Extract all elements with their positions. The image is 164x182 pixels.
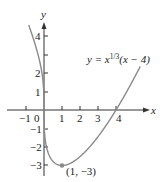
x-tick-label: 4 xyxy=(116,112,122,124)
equation-label: y = x1/3(x − 4) xyxy=(86,52,150,66)
x-axis-label: x xyxy=(150,104,156,116)
x-tick-label: −1 xyxy=(19,112,31,124)
x-tick-label: 3 xyxy=(95,112,101,124)
eq-prefix: y = x xyxy=(86,53,110,65)
x-tick-label: 2 xyxy=(77,112,83,124)
x-tick-label: 1 xyxy=(59,112,65,124)
minimum-point-label: (1, −3) xyxy=(66,165,96,178)
eq-suffix: (x − 4) xyxy=(119,53,150,66)
y-tick-label: −1 xyxy=(30,123,42,135)
y-tick-label: 2 xyxy=(35,67,41,79)
y-tick-label: 1 xyxy=(35,86,41,98)
y-tick-label: −3 xyxy=(30,159,42,171)
function-graph: x y −1 0 1 2 3 4 4 2 1 −1 −2 −3 (1, −3) … xyxy=(0,0,164,182)
eq-exponent: 1/3 xyxy=(110,52,120,61)
x-ticks xyxy=(26,106,116,110)
y-tick-label: −2 xyxy=(30,141,42,153)
y-tick-label: 4 xyxy=(35,30,41,42)
x-axis-arrow-icon xyxy=(143,108,150,113)
minimum-point xyxy=(60,163,65,168)
function-curve xyxy=(29,25,141,165)
y-axis-arrow-icon xyxy=(42,22,47,29)
y-axis-label: y xyxy=(40,8,46,20)
